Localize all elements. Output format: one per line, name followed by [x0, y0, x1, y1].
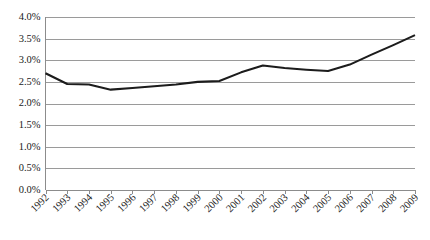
x-axis-tick-label: 1996	[115, 192, 138, 215]
y-axis-tick-label: 0.0%	[19, 184, 41, 195]
data-line-series-1	[46, 35, 416, 90]
chart-canvas: 0.0%0.5%1.0%1.5%2.0%2.5%3.0%3.5%4.0% 199…	[0, 0, 430, 240]
x-axis-tick-label: 1995	[93, 192, 116, 215]
x-axis-tick-label: 2006	[333, 192, 356, 215]
x-axis-tick-labels: 1992199319941995199619971998199920002001…	[28, 191, 420, 214]
x-axis-tick-label: 2002	[246, 192, 269, 215]
x-axis-tick-label: 2000	[202, 192, 225, 215]
x-axis-tick-label: 2008	[376, 192, 399, 215]
x-axis-tick-label: 2004	[289, 191, 312, 214]
y-axis-tick-label: 0.5%	[19, 162, 41, 173]
y-axis-tick-label: 1.5%	[19, 119, 41, 130]
y-axis-tick-labels: 0.0%0.5%1.0%1.5%2.0%2.5%3.0%3.5%4.0%	[19, 11, 41, 195]
gridlines	[46, 18, 416, 191]
x-axis-tick-label: 2003	[267, 192, 290, 215]
x-axis-tick-label: 1992	[28, 192, 51, 215]
x-axis-tick-label: 1994	[72, 191, 95, 214]
x-axis-tick-label: 1998	[159, 192, 182, 215]
x-axis-tick-label: 1997	[137, 192, 160, 215]
y-axis-tick-label: 4.0%	[19, 11, 41, 22]
x-axis-tick-label: 1993	[50, 192, 73, 215]
y-axis-tick-label: 1.0%	[19, 141, 41, 152]
x-axis-tick-label: 1999	[180, 192, 203, 215]
y-axis-tick-label: 3.0%	[19, 54, 41, 65]
y-axis-tick-label: 3.5%	[19, 33, 41, 44]
line-chart: 0.0%0.5%1.0%1.5%2.0%2.5%3.0%3.5%4.0% 199…	[0, 0, 430, 240]
x-axis-tick-label: 2007	[354, 192, 377, 215]
x-axis-tick-label: 2001	[224, 192, 247, 215]
x-axis-tick-label: 2009	[398, 192, 421, 215]
y-axis-tick-label: 2.5%	[19, 76, 41, 87]
y-axis-tick-label: 2.0%	[19, 97, 41, 108]
x-axis-tick-label: 2005	[311, 192, 334, 215]
